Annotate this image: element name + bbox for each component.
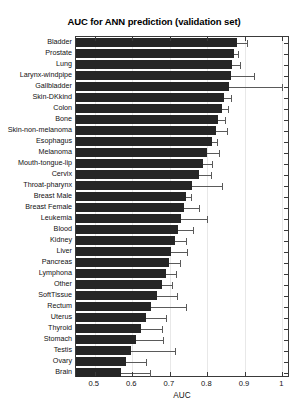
y-tick-mark: [284, 208, 288, 209]
y-axis-tick-label: Kidney: [0, 236, 72, 243]
y-tick-mark: [284, 98, 288, 99]
x-tick-mark: [170, 372, 171, 376]
x-tick-mark: [95, 372, 96, 376]
y-axis-tick-label: Breast Female: [0, 203, 72, 210]
y-tick-mark: [284, 175, 288, 176]
y-tick-mark: [284, 373, 288, 374]
y-axis-tick-label: Leukemia: [0, 214, 72, 221]
y-axis-tick-label: Rectum: [0, 302, 72, 309]
y-axis-tick-label: Pancreas: [0, 258, 72, 265]
y-tick-mark: [284, 109, 288, 110]
y-axis-tick-label: Liver: [0, 247, 72, 254]
x-tick-mark: [132, 372, 133, 376]
y-axis-tick-label: Esophagus: [0, 137, 72, 144]
y-axis-tick-label: SoftTissue: [0, 291, 72, 298]
x-axis-tick-label: 0.9: [239, 379, 250, 388]
y-tick-mark: [284, 340, 288, 341]
y-tick-mark: [284, 87, 288, 88]
y-tick-mark: [284, 351, 288, 352]
x-tick-mark: [282, 372, 283, 376]
y-axis-tick-label: Breast Male: [0, 192, 72, 199]
y-tick-mark: [284, 230, 288, 231]
y-tick-mark: [284, 153, 288, 154]
x-axis-tick-labels: 0.50.60.70.80.91: [75, 379, 289, 391]
y-axis-tick-label: Larynx-windpipe: [0, 71, 72, 78]
x-axis-tick-label: 1: [279, 379, 283, 388]
y-axis-tick-label: Colon: [0, 104, 72, 111]
y-axis-tick-label: Brain: [0, 368, 72, 375]
y-tick-mark: [284, 54, 288, 55]
x-tick-mark-top: [95, 37, 96, 41]
y-axis-tick-label: Testis: [0, 346, 72, 353]
y-tick-mark: [284, 65, 288, 66]
y-tick-mark: [284, 318, 288, 319]
y-axis-tick-label: Ovary: [0, 357, 72, 364]
y-tick-mark: [284, 142, 288, 143]
y-axis-tick-label: Blood: [0, 225, 72, 232]
y-tick-mark: [284, 296, 288, 297]
y-axis-tick-label: Skin-DKkind: [0, 93, 72, 100]
y-axis-tick-label: Mouth-tongue-lip: [0, 159, 72, 166]
axis-ticks-layer: [76, 37, 288, 376]
y-axis-tick-label: Thyroid: [0, 324, 72, 331]
x-tick-mark-top: [207, 37, 208, 41]
y-axis-tick-label: Stomach: [0, 335, 72, 342]
y-tick-mark: [284, 120, 288, 121]
y-tick-mark: [284, 285, 288, 286]
y-tick-mark: [284, 131, 288, 132]
y-axis-tick-label: Bone: [0, 115, 72, 122]
y-tick-mark: [284, 252, 288, 253]
y-axis-tick-label: Skin-non-melanoma: [0, 126, 72, 133]
y-axis-tick-label: Prostate: [0, 49, 72, 56]
x-tick-mark: [245, 372, 246, 376]
x-tick-mark-top: [245, 37, 246, 41]
chart-title: AUC for ANN prediction (validation set): [0, 16, 308, 27]
y-axis-tick-label: Melanoma: [0, 148, 72, 155]
plot-area: [75, 36, 289, 377]
y-tick-mark: [284, 197, 288, 198]
y-tick-mark: [284, 76, 288, 77]
y-tick-mark: [284, 219, 288, 220]
y-tick-mark: [284, 263, 288, 264]
x-tick-mark-top: [170, 37, 171, 41]
y-axis-tick-label: Bladder: [0, 38, 72, 45]
y-axis-category-labels: BladderProstateLungLarynx-windpipeGallbl…: [0, 36, 72, 377]
y-axis-tick-label: Cervix: [0, 170, 72, 177]
y-tick-mark: [284, 329, 288, 330]
y-tick-mark: [284, 362, 288, 363]
x-axis-tick-label: 0.5: [88, 379, 99, 388]
y-tick-mark: [284, 186, 288, 187]
chart-figure: AUC for ANN prediction (validation set) …: [0, 0, 308, 418]
x-axis-tick-label: 0.7: [164, 379, 175, 388]
y-tick-mark: [284, 307, 288, 308]
y-axis-tick-label: Lung: [0, 60, 72, 67]
y-tick-mark: [284, 274, 288, 275]
x-tick-mark-top: [132, 37, 133, 41]
x-axis-tick-label: 0.6: [126, 379, 137, 388]
y-axis-tick-label: Throat-pharynx: [0, 181, 72, 188]
y-axis-tick-label: Other: [0, 280, 72, 287]
y-tick-mark: [284, 241, 288, 242]
y-axis-tick-label: Lymphona: [0, 269, 72, 276]
x-axis-tick-label: 0.8: [201, 379, 212, 388]
y-tick-mark: [284, 43, 288, 44]
y-axis-tick-label: Gallbladder: [0, 82, 72, 89]
x-axis-label: AUC: [75, 391, 289, 400]
x-tick-mark: [207, 372, 208, 376]
y-tick-mark: [284, 164, 288, 165]
x-tick-mark-top: [282, 37, 283, 41]
y-axis-tick-label: Uterus: [0, 313, 72, 320]
